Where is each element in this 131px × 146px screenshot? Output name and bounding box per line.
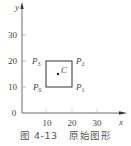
figure-caption: 图 4-13 原始图形 (0, 128, 131, 142)
vertex-label-p3: P3 (31, 56, 41, 67)
vertex-label-p0: P0 (32, 82, 42, 93)
vertex-label-p2: P2 (75, 56, 85, 67)
y-axis-arrow-icon (20, 2, 23, 9)
x-tick-label-10: 10 (43, 118, 53, 128)
center-label: C (61, 65, 68, 75)
x-tick-label-20: 20 (68, 118, 78, 128)
x-tick-label-30: 30 (93, 118, 103, 128)
x-axis-arrow-icon (119, 111, 127, 114)
vertex-label-p1: P1 (75, 82, 85, 93)
y-tick-label-30: 30 (8, 30, 18, 40)
center-point (57, 73, 59, 75)
chart-canvas: 30 20 10 0 10 20 30 y x C P3 P2 P0 P1 (0, 0, 131, 146)
figure-title: 原始图形 (69, 130, 111, 141)
figure-number: 图 4-13 (20, 130, 58, 141)
x-axis-label: x (118, 117, 123, 127)
y-tick-label-10: 10 (8, 82, 18, 92)
y-tick-label-20: 20 (8, 56, 18, 66)
y-axis-label: y (14, 2, 19, 12)
origin-label: 0 (12, 108, 17, 118)
